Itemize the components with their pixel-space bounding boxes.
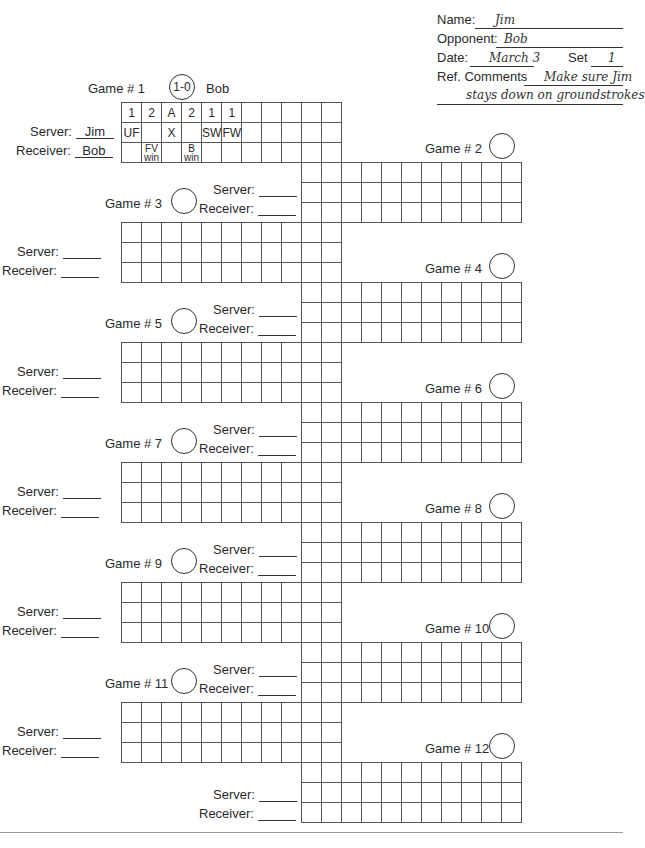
grid-cell[interactable] [322, 203, 342, 223]
grid-cell[interactable] [362, 203, 382, 223]
grid-cell[interactable] [242, 463, 262, 483]
grid-cell[interactable] [342, 283, 362, 303]
grid-cell[interactable] [162, 503, 182, 523]
grid-cell[interactable] [382, 543, 402, 563]
grid-cell[interactable] [122, 343, 142, 363]
grid-cell[interactable] [222, 623, 242, 643]
grid-cell[interactable] [302, 263, 322, 283]
grid-cell[interactable] [322, 323, 342, 343]
grid-cell[interactable] [182, 463, 202, 483]
grid-cell[interactable] [422, 763, 442, 783]
game-1-server[interactable]: Server:Jim [30, 124, 114, 139]
grid-cell[interactable] [142, 263, 162, 283]
grid-cell[interactable] [202, 743, 222, 763]
grid-cell[interactable] [442, 203, 462, 223]
grid-cell[interactable] [202, 583, 222, 603]
grid-cell[interactable] [242, 583, 262, 603]
grid-cell[interactable] [302, 223, 322, 243]
grid-cell[interactable] [122, 463, 142, 483]
grid-cell[interactable] [362, 183, 382, 203]
grid-cell[interactable] [362, 563, 382, 583]
grid-cell[interactable] [442, 283, 462, 303]
grid-cell[interactable] [202, 223, 222, 243]
grid-cell[interactable] [302, 423, 322, 443]
grid-cell[interactable] [142, 123, 162, 143]
grid-cell[interactable] [142, 243, 162, 263]
grid-cell[interactable] [302, 563, 322, 583]
grid-cell[interactable] [422, 203, 442, 223]
game-9-receiver[interactable]: Receiver: [199, 561, 296, 576]
grid-cell[interactable] [442, 783, 462, 803]
grid-cell[interactable] [322, 543, 342, 563]
grid-cell[interactable] [402, 163, 422, 183]
grid-cell[interactable] [242, 343, 262, 363]
grid-cell[interactable] [262, 243, 282, 263]
game-3-grid[interactable] [121, 222, 342, 283]
name-field[interactable]: Name: Jim [437, 12, 475, 28]
grid-cell[interactable] [302, 403, 322, 423]
grid-cell[interactable] [362, 423, 382, 443]
grid-cell[interactable] [242, 483, 262, 503]
game-9-server[interactable]: Server: [17, 604, 101, 619]
grid-cell[interactable] [402, 523, 422, 543]
game-9-score-circle[interactable] [171, 548, 197, 574]
grid-cell[interactable] [422, 663, 442, 683]
grid-cell[interactable] [262, 263, 282, 283]
grid-cell[interactable] [302, 163, 322, 183]
grid-cell[interactable] [382, 183, 402, 203]
game-3-server[interactable]: Server: [213, 182, 297, 197]
grid-cell[interactable] [242, 143, 262, 163]
grid-cell[interactable] [382, 303, 402, 323]
grid-cell[interactable] [362, 803, 382, 823]
grid-cell[interactable] [342, 643, 362, 663]
grid-cell[interactable] [302, 643, 322, 663]
grid-cell[interactable] [202, 383, 222, 403]
grid-cell[interactable] [122, 223, 142, 243]
grid-cell[interactable] [302, 523, 322, 543]
grid-cell[interactable] [422, 683, 442, 703]
grid-cell[interactable] [302, 603, 322, 623]
grid-cell[interactable] [322, 603, 342, 623]
grid-cell[interactable] [322, 143, 342, 163]
grid-cell[interactable] [402, 323, 422, 343]
grid-cell[interactable] [402, 203, 422, 223]
grid-cell[interactable] [442, 663, 462, 683]
grid-cell[interactable] [482, 163, 502, 183]
grid-cell[interactable] [262, 123, 282, 143]
grid-cell[interactable] [402, 803, 422, 823]
grid-cell[interactable] [362, 763, 382, 783]
grid-cell[interactable] [342, 203, 362, 223]
grid-cell[interactable] [442, 163, 462, 183]
grid-cell[interactable] [362, 663, 382, 683]
game-7-receiver[interactable]: Receiver: [2, 503, 99, 518]
game-3-receiver[interactable]: Receiver: [199, 201, 296, 216]
grid-cell[interactable] [422, 403, 442, 423]
grid-cell[interactable] [422, 323, 442, 343]
grid-cell[interactable] [182, 243, 202, 263]
grid-cell[interactable] [122, 383, 142, 403]
grid-cell[interactable] [502, 663, 522, 683]
grid-cell[interactable] [322, 383, 342, 403]
grid-cell[interactable] [482, 803, 502, 823]
grid-cell[interactable] [222, 743, 242, 763]
grid-cell[interactable] [262, 103, 282, 123]
grid-cell[interactable] [282, 623, 302, 643]
grid-cell[interactable] [382, 523, 402, 543]
grid-cell[interactable] [162, 263, 182, 283]
grid-cell[interactable] [302, 103, 322, 123]
grid-cell[interactable] [462, 443, 482, 463]
grid-cell[interactable] [502, 403, 522, 423]
date-field[interactable]: Date: March 3 [437, 50, 468, 66]
grid-cell[interactable] [482, 423, 502, 443]
grid-cell[interactable] [442, 683, 462, 703]
grid-cell[interactable] [422, 423, 442, 443]
grid-cell[interactable] [442, 543, 462, 563]
grid-cell[interactable] [142, 603, 162, 623]
grid-cell[interactable] [262, 603, 282, 623]
grid-cell[interactable] [362, 303, 382, 323]
grid-cell[interactable] [442, 423, 462, 443]
grid-cell[interactable] [302, 323, 322, 343]
grid-cell[interactable] [302, 483, 322, 503]
grid-cell[interactable] [162, 343, 182, 363]
grid-cell[interactable] [462, 543, 482, 563]
